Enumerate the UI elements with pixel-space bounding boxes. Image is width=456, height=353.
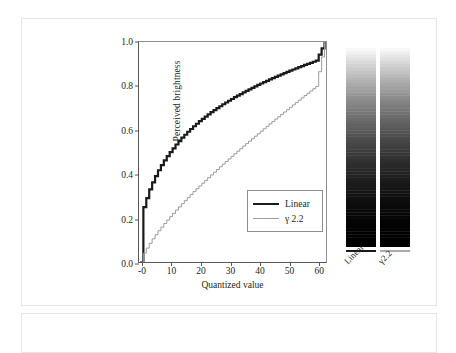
gradient-step — [346, 203, 376, 207]
gradient-step — [380, 99, 410, 103]
gradient-step — [380, 152, 410, 156]
gradient-step — [380, 244, 410, 247]
gradient-step — [380, 190, 410, 194]
gradient-step — [380, 77, 410, 81]
gradient-step — [346, 73, 376, 77]
gradient-step — [380, 64, 410, 68]
gradient-step — [346, 228, 376, 232]
gradient-step — [380, 168, 410, 172]
y-tick-mark — [135, 264, 139, 265]
gradient-step — [346, 215, 376, 219]
gradient-step — [346, 58, 376, 62]
gradient-step — [346, 241, 376, 245]
gradient-step — [346, 96, 376, 100]
linear-gradient-strip: Linear — [346, 45, 376, 247]
gradient-step — [380, 178, 410, 182]
legend-swatch-gamma — [253, 218, 279, 219]
gradient-step — [380, 143, 410, 147]
x-tick-mark — [260, 262, 261, 266]
gradient-step — [380, 92, 410, 96]
gradient-step — [346, 178, 376, 182]
gradient-step — [346, 137, 376, 141]
gradient-step — [380, 159, 410, 163]
gradient-step — [380, 203, 410, 207]
gradient-step — [380, 54, 410, 58]
y-tick-label: 1.0 — [95, 37, 139, 47]
gradient-step — [380, 70, 410, 74]
gradient-step — [346, 184, 376, 188]
gradient-step — [346, 146, 376, 150]
x-axis-label: Quantized value — [139, 280, 326, 290]
gradient-step — [346, 83, 376, 87]
x-tick-mark — [319, 262, 320, 266]
gradient-step — [380, 86, 410, 90]
gradient-step — [346, 111, 376, 115]
gradient-step — [346, 168, 376, 172]
y-tick-mark — [135, 42, 139, 43]
gradient-step — [380, 219, 410, 223]
gradient-step — [346, 121, 376, 125]
gradient-step — [380, 165, 410, 169]
x-tick-label: 30 — [226, 266, 236, 276]
y-tick-label: 0.0 — [95, 259, 139, 269]
plot-area: Perceived brightness 0.00.20.40.60.81.0 … — [138, 41, 327, 263]
gradient-step — [380, 67, 410, 71]
x-tick-mark — [201, 262, 202, 266]
gradient-step — [380, 45, 410, 49]
gradient-step — [346, 118, 376, 122]
gradient-step — [380, 111, 410, 115]
gradient-step — [380, 80, 410, 84]
x-tick-label: -0 — [138, 266, 146, 276]
gradient-step — [346, 108, 376, 112]
gradient-step — [346, 80, 376, 84]
gradient-step — [346, 231, 376, 235]
gradient-step — [380, 238, 410, 242]
x-tick-label: 50 — [285, 266, 295, 276]
gradient-step — [380, 48, 410, 52]
gradient-step — [346, 206, 376, 210]
gradient-step — [346, 140, 376, 144]
gradient-step — [346, 222, 376, 226]
gradient-step — [346, 152, 376, 156]
x-tick-mark — [231, 262, 232, 266]
chart-legend: Linear γ 2.2 — [247, 190, 323, 232]
gradient-step — [346, 105, 376, 109]
y-tick-mark — [135, 130, 139, 131]
figure-panel: Perceived brightness 0.00.20.40.60.81.0 … — [21, 18, 437, 306]
gradient-step — [346, 86, 376, 90]
gradient-step — [380, 212, 410, 216]
gradient-step — [346, 99, 376, 103]
gradient-step — [346, 114, 376, 118]
y-tick-label: 0.4 — [95, 170, 139, 180]
gradient-step — [380, 222, 410, 226]
gradient-step — [380, 118, 410, 122]
gradient-step — [380, 83, 410, 87]
x-tick-label: 40 — [255, 266, 265, 276]
gradient-step — [380, 96, 410, 100]
gradient-step — [346, 212, 376, 216]
gradient-step — [346, 155, 376, 159]
next-content-panel — [21, 313, 437, 353]
gradient-step — [346, 159, 376, 163]
gradient-step — [346, 234, 376, 238]
gradient-step — [380, 197, 410, 201]
gradient-step — [380, 174, 410, 178]
gradient-step — [380, 162, 410, 166]
gradient-step — [380, 181, 410, 185]
y-tick-label: 0.6 — [95, 126, 139, 136]
gradient-step — [346, 51, 376, 55]
gradient-step — [380, 225, 410, 229]
gradient-step — [346, 67, 376, 71]
gradient-step — [380, 193, 410, 197]
x-tick-mark — [171, 262, 172, 266]
gradient-step — [380, 231, 410, 235]
x-tick-mark — [142, 262, 143, 266]
y-tick-label: 0.8 — [95, 81, 139, 91]
gradient-step — [346, 77, 376, 81]
gradient-step — [380, 73, 410, 77]
legend-label-gamma: γ 2.2 — [285, 214, 303, 224]
gradient-step — [380, 130, 410, 134]
gradient-step — [346, 70, 376, 74]
gradient-step — [380, 200, 410, 204]
gradient-step — [380, 127, 410, 131]
